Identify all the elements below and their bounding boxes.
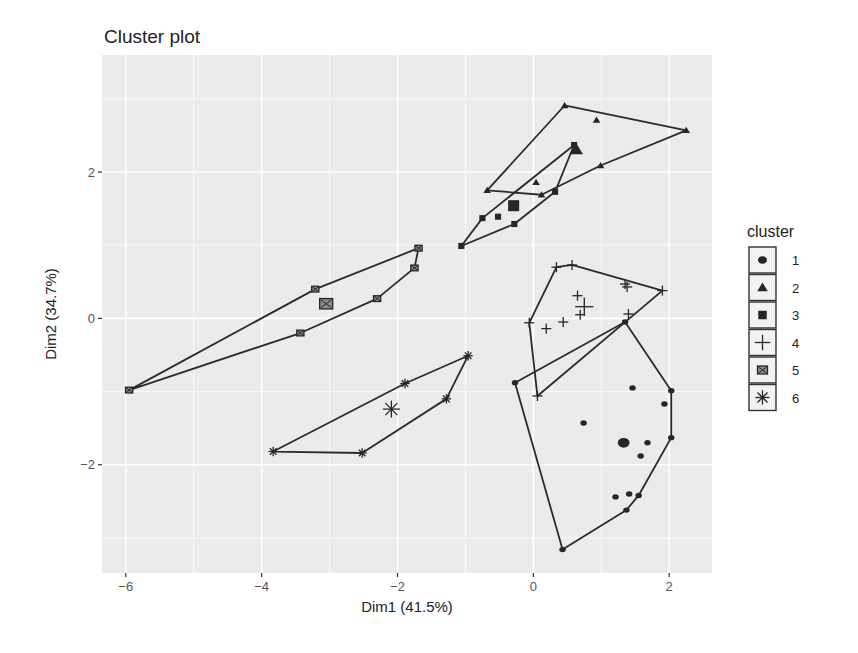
cluster-5-point [411,265,418,271]
cluster-1-point [622,319,628,324]
legend-key-5 [749,357,776,383]
legend-asterisk-icon [755,390,769,404]
cluster-3-point [458,243,464,249]
cluster-6-point [357,448,366,457]
legend-key-6 [749,385,776,411]
cluster-5-centroid [320,299,333,309]
x-tick-label: −4 [254,579,269,594]
cluster-1-point [661,401,667,406]
x-axis-title: Dim1 (41.5%) [361,598,453,615]
legend-label: 1 [792,253,799,268]
x-tick-label: −2 [390,579,405,594]
cluster-1-point [668,388,674,393]
cluster-5-point [297,330,304,336]
cluster-1-point [637,453,643,458]
legend-key-4 [749,330,776,356]
x-axis: −6−4−202 [118,573,672,594]
legend-key-3 [749,302,776,328]
cluster-1-point [580,420,586,425]
cluster-1-centroid [618,438,630,448]
x-tick-label: 0 [530,579,537,594]
y-axis-title: Dim2 (34.7%) [42,268,59,360]
cluster-3-point [552,189,558,195]
cluster-3-point [495,214,501,220]
chart-title: Cluster plot [104,26,201,47]
legend-label: 5 [792,363,799,378]
cluster-1-point [512,380,518,385]
cluster-1-point [635,493,641,498]
cluster-3-point [479,215,485,221]
cluster-1-point [559,547,565,552]
x-tick-label: −6 [118,579,133,594]
legend-label: 3 [792,308,799,323]
legend: cluster 123456 [747,223,799,411]
legend-title: cluster [747,223,795,240]
x-tick-label: 2 [666,579,673,594]
cluster-1-point [668,435,674,440]
cluster-1-point [626,491,632,496]
cluster-1-point [644,440,650,445]
legend-key-1 [749,247,776,273]
cluster-6-point [269,447,278,456]
cluster-1-point [623,507,629,512]
cluster-3-point [511,221,517,227]
cluster-5-point [312,286,319,292]
cluster-6-point [442,394,451,403]
cluster-6-centroid [383,401,400,418]
legend-boxed-x-icon [758,366,768,374]
cluster-6-point [400,379,409,388]
cluster-plot: Cluster plot −6−4−202 −202 Dim1 (41.5%) … [0,0,858,653]
cluster-1-point [629,385,635,390]
cluster-5-point [415,245,422,251]
legend-label: 4 [792,336,799,351]
legend-label: 6 [792,391,799,406]
y-tick-label: −2 [80,457,95,472]
y-axis: −202 [80,165,102,473]
cluster-3-point [571,142,577,148]
cluster-1-point [612,494,618,499]
cluster-6-point [463,351,472,360]
y-tick-label: 2 [88,165,95,180]
cluster-3-centroid [508,200,519,211]
legend-square-icon [758,311,767,320]
legend-key-2 [749,275,776,301]
cluster-5-point [374,296,381,302]
y-tick-label: 0 [88,311,95,326]
legend-circle-icon [758,256,767,264]
legend-label: 2 [792,281,799,296]
cluster-5-point [126,387,133,393]
